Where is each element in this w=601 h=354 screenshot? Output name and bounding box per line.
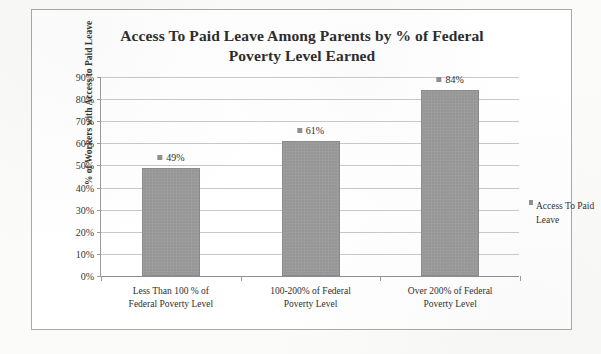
bar — [142, 168, 200, 276]
y-axis-tick — [97, 121, 101, 122]
bar — [282, 141, 340, 276]
plot-inner: 90%80%70%60%50%40%30%20%10%0%49%Less Tha… — [100, 77, 519, 276]
y-axis-tick — [97, 210, 101, 211]
x-axis-category-line: Less Than 100 % of — [96, 285, 246, 298]
y-axis-label: 0% — [81, 271, 94, 282]
data-label-value: 49% — [166, 152, 184, 163]
y-axis-label: 90% — [76, 72, 94, 83]
bar-data-label: 84% — [436, 74, 463, 85]
y-axis-tick — [97, 254, 101, 255]
y-axis-tick — [97, 143, 101, 144]
x-axis-category-line: Federal Poverty Level — [96, 298, 246, 311]
data-label-value: 84% — [445, 74, 463, 85]
x-axis-category-line: Poverty Level — [236, 298, 386, 311]
y-axis-label: 80% — [76, 94, 94, 105]
x-axis-category-line: 100-200% of Federal — [236, 285, 386, 298]
x-axis-category-label: Less Than 100 % ofFederal Poverty Level — [96, 285, 246, 311]
y-axis-tick — [97, 165, 101, 166]
y-axis-tick — [97, 188, 101, 189]
plot-area: 90%80%70%60%50%40%30%20%10%0%49%Less Tha… — [100, 77, 519, 276]
y-axis-label: 40% — [76, 182, 94, 193]
y-axis-label: 30% — [76, 204, 94, 215]
chart-frame: Access To Paid Leave Among Parents by % … — [31, 9, 572, 330]
y-axis-label: 20% — [76, 226, 94, 237]
gridline — [101, 276, 519, 277]
y-axis-tick — [97, 232, 101, 233]
chart-title-line-1: Access To Paid Leave Among Parents by % … — [72, 26, 532, 46]
chart-title: Access To Paid Leave Among Parents by % … — [72, 26, 532, 66]
y-axis-label: 60% — [76, 138, 94, 149]
y-axis-label: 50% — [76, 160, 94, 171]
data-label-marker-icon — [297, 128, 302, 133]
x-axis-category-label: Over 200% of FederalPoverty Level — [375, 285, 525, 311]
y-axis-tick — [97, 77, 101, 78]
chart-legend: Access To Paid Leave — [529, 200, 601, 227]
x-axis-tick — [241, 276, 242, 281]
x-axis-tick — [520, 276, 521, 281]
chart-screenshot: Access To Paid Leave Among Parents by % … — [0, 0, 601, 354]
data-label-marker-icon — [436, 77, 441, 82]
x-axis-tick — [101, 276, 102, 281]
bar-data-label: 49% — [157, 152, 184, 163]
x-axis-category-line: Poverty Level — [375, 298, 525, 311]
y-axis-label: 10% — [76, 248, 94, 259]
bar — [421, 90, 479, 276]
legend-item-label: Access To Paid Leave — [536, 200, 601, 227]
legend-swatch-icon — [529, 200, 533, 205]
data-label-value: 61% — [306, 125, 324, 136]
x-axis-tick — [380, 276, 381, 281]
y-axis-label: 70% — [76, 116, 94, 127]
legend-item: Access To Paid Leave — [529, 200, 601, 227]
y-axis-tick — [97, 99, 101, 100]
chart-title-line-2: Poverty Level Earned — [72, 46, 532, 66]
x-axis-category-line: Over 200% of Federal — [375, 285, 525, 298]
bar-data-label: 61% — [297, 125, 324, 136]
data-label-marker-icon — [157, 155, 162, 160]
x-axis-category-label: 100-200% of FederalPoverty Level — [236, 285, 386, 311]
